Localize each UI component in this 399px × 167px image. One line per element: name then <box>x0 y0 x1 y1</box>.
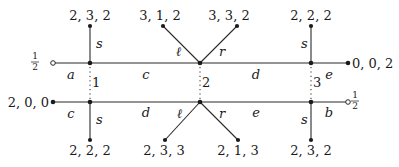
bottom-branch-r-label: 2, 1, 3 <box>217 143 258 158</box>
top-vertex-1 <box>88 61 93 66</box>
top-left-half-den: 2 <box>32 62 38 72</box>
bottom-branch-s3-end <box>309 138 313 142</box>
bottom-right-half-den: 2 <box>352 101 358 111</box>
top-edge-a: a <box>67 67 75 82</box>
top-right-terminal-label: 0, 0, 2 <box>352 56 393 71</box>
bottom-vertex-1 <box>88 100 93 105</box>
bottom-branch-l-label: 2, 3, 3 <box>143 143 184 158</box>
top-branch-r-end <box>235 24 239 28</box>
bottom-left-terminal <box>51 100 56 105</box>
bottom-vertex-3 <box>309 100 314 105</box>
top-branch-s1-end <box>88 24 92 28</box>
bottom-branch-l-end <box>163 138 167 142</box>
top-branch-s1-label: 2, 3, 2 <box>69 8 110 23</box>
bottom-edge-e: e <box>252 105 260 120</box>
vertex-label-3: 3 <box>313 75 321 90</box>
bottom-branch-s3-edge: s <box>301 112 308 127</box>
top-branch-l <box>163 26 200 63</box>
top-left-half-num: 1 <box>32 51 38 61</box>
graph-diagram: 1 2 0, 0, 2 a c d e 2, 3, 2 s 3, 1, 2 ℓ … <box>0 0 399 167</box>
bottom-branch-s1-end <box>88 138 92 142</box>
top-left-open-terminal <box>51 61 56 66</box>
top-branch-s3-edge: s <box>301 36 308 51</box>
top-branch-r-edge: r <box>219 44 226 59</box>
bottom-edge-b: b <box>325 105 333 120</box>
bottom-left-terminal-label: 2, 0, 0 <box>8 95 49 110</box>
bottom-edge-d: d <box>142 105 150 120</box>
top-right-terminal <box>346 61 351 66</box>
top-branch-s3-end <box>309 24 313 28</box>
vertex-label-1: 1 <box>92 75 100 90</box>
top-vertex-2 <box>198 61 203 66</box>
top-branch-s1-edge: s <box>96 36 103 51</box>
bottom-branch-s1-edge: s <box>96 112 103 127</box>
top-edge-e: e <box>325 67 333 82</box>
bottom-edge-c: c <box>67 106 75 121</box>
vertex-label-2: 2 <box>202 75 210 90</box>
bottom-branch-r-edge: r <box>219 106 226 121</box>
top-branch-s3-label: 2, 2, 2 <box>290 8 331 23</box>
bottom-right-open-terminal <box>346 100 351 105</box>
top-edge-c: c <box>142 67 150 82</box>
bottom-branch-l-edge: ℓ <box>177 106 183 121</box>
bottom-branch-r-end <box>236 138 240 142</box>
bottom-vertex-2 <box>198 100 203 105</box>
top-branch-l-end <box>161 24 165 28</box>
bottom-right-half-num: 1 <box>352 90 358 100</box>
top-branch-r-label: 3, 3, 2 <box>208 8 249 23</box>
top-branch-l-label: 3, 1, 2 <box>139 8 180 23</box>
top-branch-l-edge: ℓ <box>176 44 182 59</box>
bottom-branch-s3-label: 2, 3, 2 <box>290 143 331 158</box>
bottom-branch-s1-label: 2, 2, 2 <box>69 143 110 158</box>
top-vertex-3 <box>309 61 314 66</box>
top-edge-d: d <box>252 67 260 82</box>
bottom-branch-l <box>165 102 200 140</box>
